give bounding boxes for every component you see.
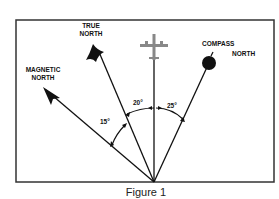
variation-angle-label: 15° <box>100 118 110 125</box>
magnetic-north-label-1: MAGNETIC <box>26 66 61 73</box>
compass-north-label-2: NORTH <box>232 50 255 57</box>
true-heading-angle-label: 20° <box>133 99 143 106</box>
true-north-label-2: NORTH <box>79 30 102 37</box>
true-north-label-1: TRUE <box>82 22 100 29</box>
magnetic-north-label-2: NORTH <box>31 74 54 81</box>
figure-caption: Figure 1 <box>126 186 166 198</box>
compass-north-ball-icon <box>202 56 216 70</box>
compass-north-label-1: COMPASS <box>202 40 235 47</box>
deviation-angle-label: 25° <box>167 102 177 109</box>
figure-diagram: TRUE NORTH MAGNETIC NORTH COMPASS NORTH … <box>0 0 279 199</box>
